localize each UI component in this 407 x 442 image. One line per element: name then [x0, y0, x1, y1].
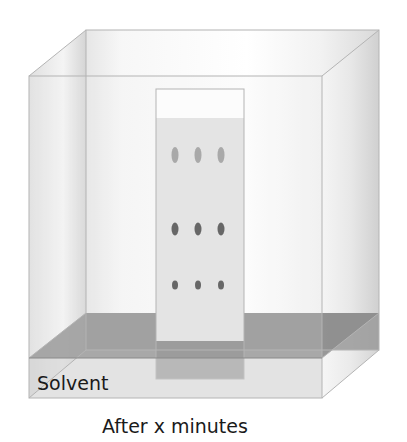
tlc-diagram: Solvent After x minutes: [0, 0, 407, 442]
solvent-label: Solvent: [37, 372, 108, 394]
caption: After x minutes: [102, 415, 248, 437]
